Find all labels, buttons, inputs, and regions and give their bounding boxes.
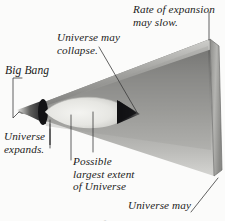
label-universe-may: Universe may — [128, 199, 191, 212]
big-bang-apex — [17, 99, 48, 125]
label-possible-largest-extent: Possible largest extent of Universe — [73, 155, 135, 193]
cut-off-caption: Future of the universe — [0, 218, 225, 221]
label-universe-may-collapse: Universe may collapse. — [57, 31, 120, 56]
label-universe-expands: Universe expands. — [4, 130, 45, 155]
label-big-bang: Big Bang — [5, 64, 49, 77]
universe-may-leader — [191, 178, 218, 212]
figure-canvas: Rate of expansion may slow. Universe may… — [0, 0, 225, 221]
label-rate-of-expansion: Rate of expansion may slow. — [133, 3, 215, 28]
